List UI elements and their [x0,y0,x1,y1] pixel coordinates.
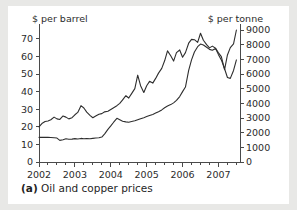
x-tick-label: 2002 [27,169,51,178]
left-tick-label: 70 [21,33,33,44]
right-tick-label: 4000 [246,98,270,109]
left-tick-label: 50 [21,68,33,79]
right-axis-title: $ per tonne [208,13,263,24]
right-tick-label: 7000 [246,54,270,65]
left-tick-label: 10 [21,139,33,150]
left-tick-label: 20 [21,121,33,132]
left-tick-label: 0 [27,156,33,167]
left-axis: 010203040506070 [21,24,39,167]
right-tick-label: 1000 [246,142,270,153]
caption-text: Oil and copper prices [38,182,153,194]
figure-card: $ per barrel $ per tonne 010203040506070… [8,6,289,204]
right-tick-label: 2000 [246,127,270,138]
x-axis: 200220032004200520062007 [27,162,240,178]
left-tick-label: 60 [21,51,33,62]
series-line-oil-price [39,44,236,140]
x-tick-label: 2005 [135,169,159,178]
right-tick-label: 5000 [246,83,270,94]
right-axis: 0100020003000400050006000700080009000 [240,24,270,167]
chart-plot-area: $ per barrel $ per tonne 010203040506070… [8,6,289,178]
x-tick-label: 2004 [99,169,123,178]
left-tick-label: 40 [21,86,33,97]
oil-and-copper-prices-chart: $ per barrel $ per tonne 010203040506070… [8,6,289,178]
left-tick-label: 30 [21,104,33,115]
x-tick-label: 2007 [206,169,230,178]
figure-caption: (a) Oil and copper prices [21,182,153,194]
caption-label: (a) [21,182,38,194]
right-tick-label: 9000 [246,24,270,35]
x-tick-label: 2003 [63,169,87,178]
right-tick-label: 6000 [246,68,270,79]
series-lines [39,30,236,140]
right-tick-label: 8000 [246,39,270,50]
x-tick-label: 2006 [170,169,194,178]
right-tick-label: 3000 [246,112,270,123]
left-axis-title: $ per barrel [32,13,88,24]
series-line-copper-price [39,30,236,127]
right-tick-label: 0 [246,156,252,167]
